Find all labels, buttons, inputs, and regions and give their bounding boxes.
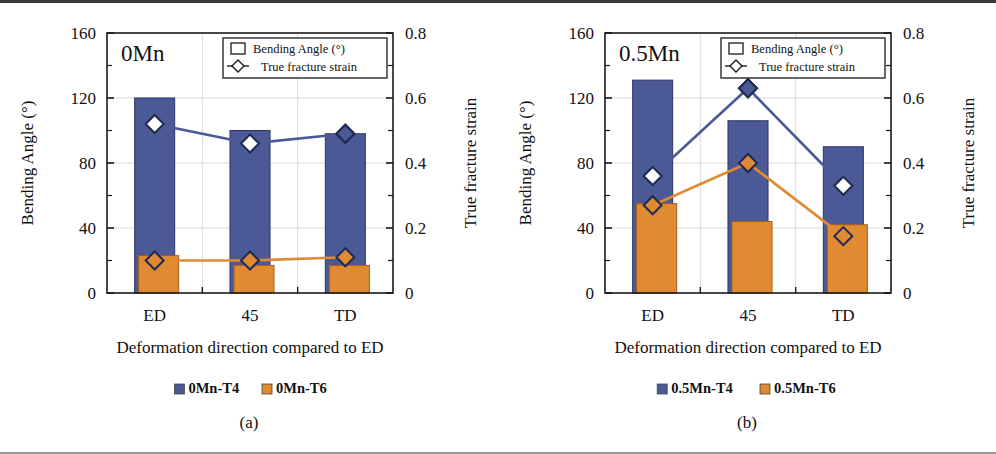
x-axis-tick-label: ED: [143, 306, 166, 325]
series-legend: 0.5Mn-T40.5Mn-T6: [657, 380, 835, 396]
inset-legend: Bending Angle (°)True fracture strain: [721, 38, 885, 78]
legend-line-label: True fracture strain: [261, 60, 358, 74]
inset-legend: Bending Angle (°)True fracture strain: [223, 38, 387, 78]
y-axis-tick-label: 40: [577, 219, 594, 238]
y-axis-tick-label: 120: [71, 89, 97, 108]
y-axis-tick-label: 80: [79, 154, 96, 173]
y-axis-tick-label: 0: [586, 284, 595, 303]
x-axis-tick-label: ED: [641, 306, 664, 325]
y-axis-tick-label: 0: [88, 284, 97, 303]
series-legend-label: 0Mn-T6: [276, 380, 327, 396]
x-axis-title: Deformation direction compared to ED: [116, 338, 383, 357]
panel-b-chart: 0408012016000.20.40.60.8ED45TDBending An…: [498, 0, 996, 454]
legend-line-label: True fracture strain: [759, 60, 856, 74]
series-legend-swatch: [760, 384, 770, 394]
series-legend-label: 0.5Mn-T6: [774, 380, 836, 396]
panel-title: 0Mn: [121, 41, 165, 66]
bar-t6: [329, 265, 369, 293]
y2-axis-tick-label: 0: [903, 284, 912, 303]
panel-subcaption: (b): [737, 413, 757, 432]
panel-b: 0408012016000.20.40.60.8ED45TDBending An…: [498, 0, 996, 454]
y2-axis-tick-label: 0.4: [405, 154, 427, 173]
y2-axis-tick-label: 0.6: [405, 89, 426, 108]
x-axis-tick-label: TD: [832, 306, 855, 325]
panel-b-render: 0408012016000.20.40.60.8ED45TDBending An…: [516, 24, 978, 432]
y2-axis-title: True fracture strain: [461, 97, 480, 228]
series-legend-label: 0Mn-T4: [188, 380, 239, 396]
figure-root: 0408012016000.20.40.60.8ED45TDBending An…: [0, 0, 996, 454]
y2-axis-tick-label: 0: [405, 284, 414, 303]
y2-axis-tick-label: 0.2: [903, 219, 924, 238]
series-legend: 0Mn-T40Mn-T6: [174, 380, 326, 396]
y2-axis-tick-label: 0.6: [903, 89, 924, 108]
legend-bar-label: Bending Angle (°): [751, 42, 843, 56]
bars-group: [633, 80, 868, 293]
x-axis-tick-label: TD: [334, 306, 357, 325]
series-legend-swatch: [657, 384, 667, 394]
panel-subcaption: (a): [240, 413, 259, 432]
x-axis-title: Deformation direction compared to ED: [614, 338, 881, 357]
y2-axis-title: True fracture strain: [959, 97, 978, 228]
y-axis-tick-label: 160: [569, 24, 595, 43]
y-axis-tick-label: 120: [569, 89, 595, 108]
bar-t6: [637, 204, 677, 293]
y-axis-title: Bending Angle (°): [516, 101, 535, 226]
y2-axis-tick-label: 0.4: [903, 154, 925, 173]
panel-a-render: 0408012016000.20.40.60.8ED45TDBending An…: [18, 24, 480, 432]
series-legend-swatch: [174, 384, 184, 394]
y-axis-tick-label: 40: [79, 219, 96, 238]
series-legend-label: 0.5Mn-T4: [671, 380, 733, 396]
y-axis-title: Bending Angle (°): [18, 101, 37, 226]
x-axis-tick-label: 45: [740, 306, 757, 325]
y2-axis-tick-label: 0.2: [405, 219, 426, 238]
y-axis-tick-label: 80: [577, 154, 594, 173]
legend-bar-label: Bending Angle (°): [253, 42, 345, 56]
x-axis-tick-label: 45: [242, 306, 259, 325]
panel-a-chart: 0408012016000.20.40.60.8ED45TDBending An…: [0, 0, 498, 454]
bar-t6: [732, 222, 772, 294]
legend-bar-swatch-icon: [729, 43, 743, 54]
series-legend-swatch: [262, 384, 272, 394]
bar-t6: [234, 265, 274, 293]
y2-axis-tick-label: 0.8: [405, 24, 426, 43]
y2-axis-tick-label: 0.8: [903, 24, 924, 43]
panel-a: 0408012016000.20.40.60.8ED45TDBending An…: [0, 0, 498, 454]
panel-title: 0.5Mn: [619, 41, 680, 66]
y-axis-tick-label: 160: [71, 24, 97, 43]
legend-bar-swatch-icon: [231, 43, 245, 54]
